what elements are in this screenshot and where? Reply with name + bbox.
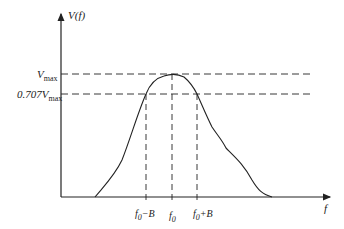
half-power-label: 0.707Vmax <box>17 88 62 103</box>
x-axis-label: f <box>324 202 329 214</box>
y-axis-label: V(f) <box>68 9 85 22</box>
response-curve <box>95 75 272 197</box>
f0-label: f0 <box>169 210 176 224</box>
vmax-label: Vmax <box>37 68 58 83</box>
bandwidth-diagram: V(f) f Vmax 0.707Vmax f0−B f0 f0+B <box>0 0 344 229</box>
f0-plus-b-label: f0+B <box>193 208 213 222</box>
f0-minus-b-label: f0−B <box>135 208 155 222</box>
